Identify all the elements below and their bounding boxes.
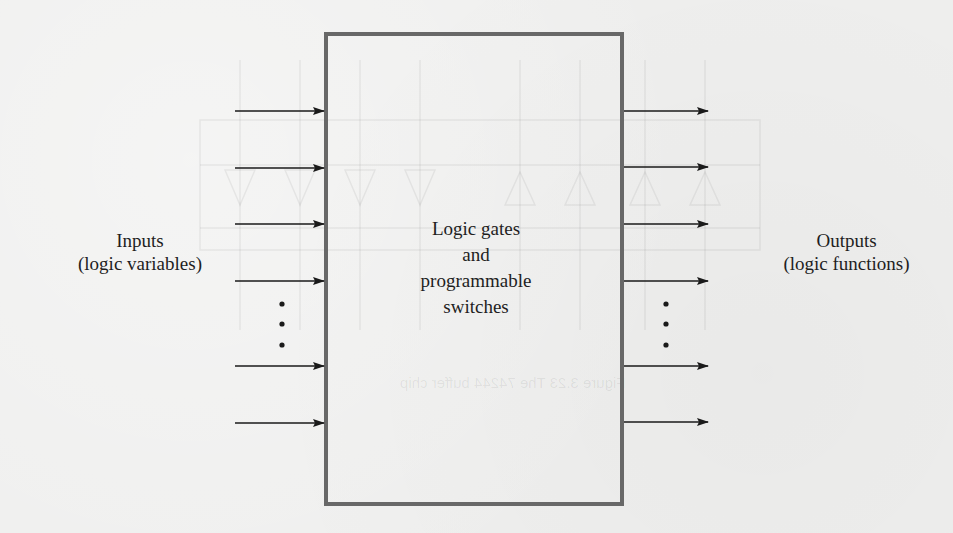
logic-block-label-line-2: and (376, 242, 576, 268)
inputs-label: Inputs (logic variables) (60, 229, 220, 275)
left-ellipsis-dot-1 (279, 301, 284, 306)
outputs-label: Outputs (logic functions) (740, 229, 953, 275)
right-ellipsis-dot-2 (663, 321, 668, 326)
input-arrows-group (235, 111, 324, 423)
left-ellipsis-dot-2 (279, 321, 284, 326)
logic-block-label-line-1: Logic gates (376, 216, 576, 242)
outputs-label-subtitle: (logic functions) (740, 252, 953, 275)
output-arrows-group (624, 111, 708, 422)
scanned-page: Figure 3.23 The 74244 buffer chip Inputs… (0, 0, 953, 533)
outputs-label-title: Outputs (740, 229, 953, 252)
left-ellipsis-dot-3 (279, 342, 284, 347)
logic-block-label-line-3: programmable (376, 268, 576, 294)
right-ellipsis-dot-3 (663, 342, 668, 347)
right-ellipsis-dot-1 (663, 301, 668, 306)
logic-block-label-line-4: switches (376, 294, 576, 320)
logic-block-label: Logic gates and programmable switches (376, 216, 576, 320)
inputs-label-subtitle: (logic variables) (60, 252, 220, 275)
inputs-label-title: Inputs (60, 229, 220, 252)
